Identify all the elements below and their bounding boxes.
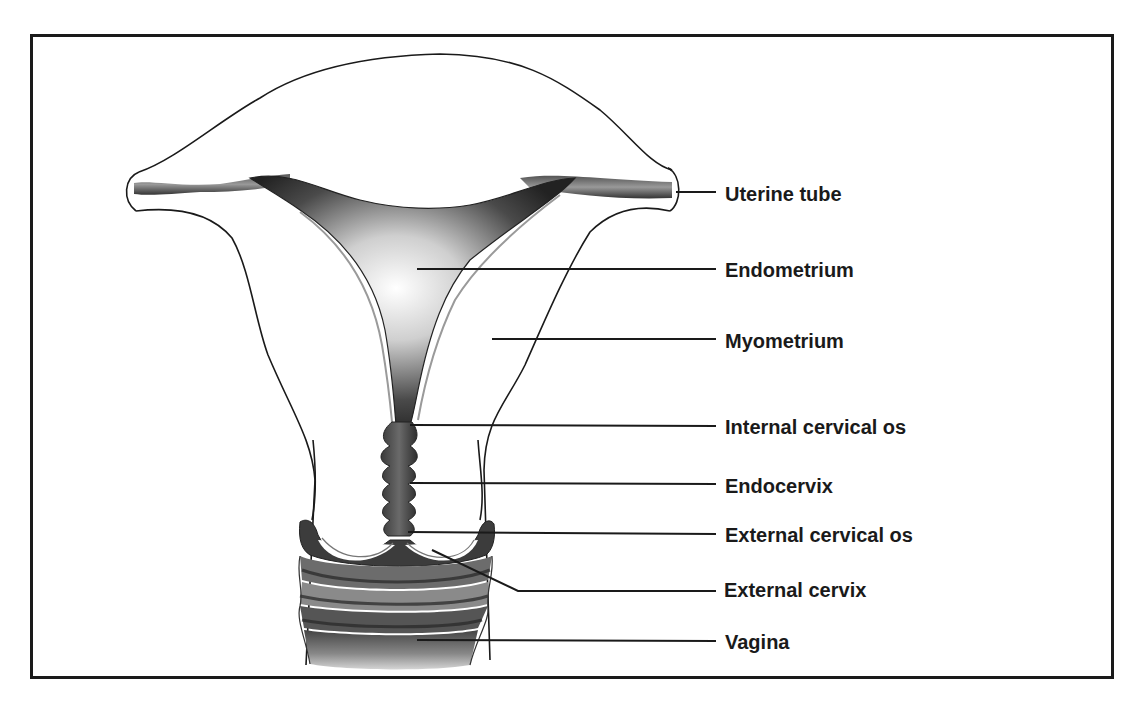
leader-line-external-cervical-os bbox=[408, 532, 716, 534]
label-uterine-tube: Uterine tube bbox=[725, 184, 842, 204]
vagina-rugae bbox=[299, 556, 492, 669]
leader-line-endocervix bbox=[410, 483, 716, 484]
label-internal-cervical-os: Internal cervical os bbox=[725, 417, 906, 437]
label-external-cervix: External cervix bbox=[724, 580, 866, 600]
label-external-cervical-os: External cervical os bbox=[725, 525, 913, 545]
leader-line-internal-cervical-os bbox=[410, 425, 716, 426]
label-vagina: Vagina bbox=[725, 632, 789, 652]
label-endometrium: Endometrium bbox=[725, 260, 854, 280]
uterus-illustration bbox=[0, 0, 1143, 702]
leader-line-vagina bbox=[417, 640, 716, 641]
endometrial-cavity bbox=[250, 176, 575, 425]
endocervical-canal bbox=[381, 422, 417, 536]
label-myometrium: Myometrium bbox=[725, 331, 844, 351]
label-endocervix: Endocervix bbox=[725, 476, 833, 496]
